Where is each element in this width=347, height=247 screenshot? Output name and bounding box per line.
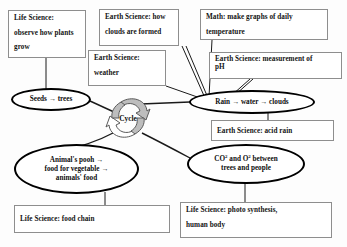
cycle-label: Cycle [108, 114, 148, 123]
ellipse-text: trees and people [217, 164, 275, 173]
box-earth-science-measurement-ph[interactable]: Earth Science: measurement of pH [209, 52, 342, 79]
box-math-graphs-temperature[interactable]: Math: make graphs of daily temperature [200, 9, 328, 40]
box-line: clouds are formed [105, 29, 174, 37]
ellipse-text-co2: CO2 and O2 between [210, 155, 281, 164]
ellipse-text: Rain → water → clouds [211, 98, 292, 107]
box-earth-science-clouds-formed[interactable]: Earth Science: how clouds are formed [99, 9, 179, 46]
box-line: Life Science: food chain [20, 216, 94, 224]
ellipse-rain-water-clouds[interactable]: Rain → water → clouds [189, 90, 315, 114]
box-line: Earth Science: [94, 55, 161, 63]
box-line: Earth Science: how [105, 14, 174, 22]
ellipse-co2-o2-trees-people[interactable]: CO2 and O2 between trees and people [187, 144, 305, 184]
ellipse-text: animals' food [52, 174, 101, 183]
box-earth-science-acid-rain[interactable]: Earth Science: acid rain [211, 120, 334, 141]
box-line: Earth Science: acid rain [217, 128, 292, 136]
ellipse-text: Animal's pooh → [46, 156, 108, 165]
box-line: Life Science: photo synthesis, [186, 207, 327, 215]
box-line: grow [14, 44, 81, 52]
box-line: Life Science: [14, 15, 81, 23]
box-life-science-food-chain[interactable]: Life Science: food chain [14, 205, 170, 233]
box-life-science-photosynthesis[interactable]: Life Science: photo synthesis, human bod… [180, 202, 332, 238]
ellipse-seeds-trees[interactable]: Seeds → trees [11, 88, 91, 111]
box-life-science-observe-plants[interactable]: Life Science: observe how plants grow [8, 10, 86, 58]
box-line: observe how plants [14, 30, 81, 38]
box-line: pH [215, 64, 337, 72]
connector-clouds-to-rain [182, 46, 205, 98]
box-line: Earth Science: measurement of [215, 56, 337, 64]
ellipse-animals-pooh-food[interactable]: Animal's pooh → food for vegetable → ani… [14, 144, 139, 194]
concept-map-diagram: Life Science: observe how plants grow Ea… [0, 0, 347, 247]
box-line: temperature [206, 29, 323, 37]
box-line: human body [186, 222, 327, 230]
box-line: weather [94, 70, 161, 78]
box-line: Math: make graphs of daily [206, 14, 323, 22]
ellipse-text: food for vegetable → [41, 165, 113, 174]
ellipse-text: Seeds → trees [26, 95, 77, 104]
connector-clouds-to-rain-2 [186, 46, 208, 98]
box-earth-science-weather[interactable]: Earth Science: weather [88, 50, 166, 86]
